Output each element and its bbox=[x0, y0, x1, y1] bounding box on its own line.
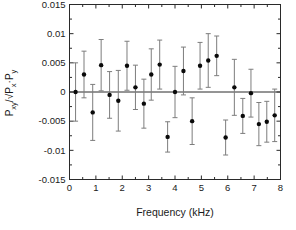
data-point bbox=[190, 119, 194, 123]
data-point bbox=[257, 122, 261, 126]
figure: 012345678-0.015-0.01-0.00500.0050.010.01… bbox=[0, 0, 296, 230]
x-tick-label: 8 bbox=[278, 182, 283, 193]
data-point bbox=[107, 93, 111, 97]
y-tick-label: 0.01 bbox=[47, 28, 66, 39]
data-point bbox=[158, 62, 162, 66]
data-point bbox=[165, 135, 169, 139]
data-point bbox=[142, 101, 146, 105]
data-point bbox=[73, 90, 77, 94]
data-point bbox=[133, 85, 137, 89]
x-tick-label: 3 bbox=[146, 182, 151, 193]
data-point bbox=[125, 64, 129, 68]
y-tick-label: 0 bbox=[60, 86, 65, 97]
data-point bbox=[82, 72, 86, 76]
plot-area: 012345678-0.015-0.01-0.00500.0050.010.01… bbox=[39, 0, 284, 193]
data-point bbox=[181, 69, 185, 73]
x-tick-label: 4 bbox=[172, 182, 177, 193]
data-point bbox=[206, 58, 210, 62]
y-tick-label: 0.015 bbox=[42, 0, 66, 10]
data-point bbox=[198, 64, 202, 68]
data-point bbox=[91, 110, 95, 114]
data-point bbox=[116, 99, 120, 103]
data-point bbox=[99, 63, 103, 67]
data-point bbox=[214, 54, 218, 58]
y-tick-label: -0.005 bbox=[39, 115, 66, 126]
data-point bbox=[232, 85, 236, 89]
x-tick-label: 7 bbox=[251, 182, 256, 193]
data-point bbox=[272, 113, 276, 117]
data-point bbox=[223, 135, 227, 139]
x-tick-label: 6 bbox=[225, 182, 230, 193]
data-point bbox=[149, 72, 153, 76]
y-axis-title: Pxy/√Px·Py bbox=[4, 69, 18, 116]
x-tick-label: 5 bbox=[199, 182, 204, 193]
x-tick-label: 1 bbox=[93, 182, 98, 193]
scatter-chart: 012345678-0.015-0.01-0.00500.0050.010.01… bbox=[0, 0, 296, 230]
data-point bbox=[241, 114, 245, 118]
data-point bbox=[173, 90, 177, 94]
data-point bbox=[265, 120, 269, 124]
x-tick-label: 2 bbox=[120, 182, 125, 193]
y-tick-label: 0.005 bbox=[42, 57, 66, 68]
x-axis-title: Frequency (kHz) bbox=[136, 206, 214, 218]
y-axis-title-text: Pxy/√Px·Py bbox=[4, 69, 18, 116]
y-tick-label: -0.015 bbox=[39, 174, 66, 185]
data-point bbox=[249, 91, 253, 95]
x-tick-label: 0 bbox=[67, 182, 72, 193]
y-tick-label: -0.01 bbox=[44, 145, 66, 156]
